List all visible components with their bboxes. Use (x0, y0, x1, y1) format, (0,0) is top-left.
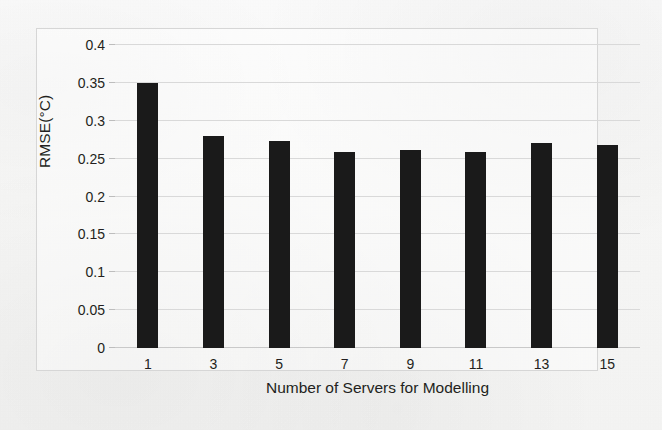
x-tick-label: 13 (522, 356, 562, 372)
y-tick-mark (109, 309, 115, 310)
bar (269, 141, 290, 348)
y-tick-label: 0.3 (45, 113, 105, 129)
y-tick-label: 0.35 (45, 75, 105, 91)
y-tick-label: 0 (45, 340, 105, 356)
x-tick-label: 3 (193, 356, 233, 372)
y-tick-label: 0.4 (45, 37, 105, 53)
bar (531, 143, 552, 348)
page-background: RMSE(°C) 00.050.10.150.20.250.30.350.4 N… (0, 0, 662, 430)
y-tick-mark (109, 347, 115, 348)
y-tick-mark (109, 271, 115, 272)
y-tick-label: 0.15 (45, 226, 105, 242)
y-gridline (115, 233, 640, 234)
y-gridline (115, 120, 640, 121)
bar (334, 152, 355, 348)
y-tick-label: 0.25 (45, 151, 105, 167)
x-tick-label: 15 (587, 356, 627, 372)
bar (400, 150, 421, 348)
x-tick-label: 1 (128, 356, 168, 372)
y-tick-mark (109, 120, 115, 121)
y-gridline (115, 347, 640, 348)
y-tick-label: 0.05 (45, 302, 105, 318)
bar (465, 152, 486, 348)
x-tick-label: 9 (390, 356, 430, 372)
bar (597, 145, 618, 348)
bar (137, 83, 158, 348)
x-axis-title: Number of Servers for Modelling (115, 379, 640, 397)
y-gridline (115, 271, 640, 272)
y-gridline (115, 196, 640, 197)
x-tick-label: 7 (325, 356, 365, 372)
y-tick-mark (109, 233, 115, 234)
plot-area (115, 45, 640, 348)
y-axis-tick-labels: 00.050.10.150.20.250.30.350.4 (43, 45, 105, 348)
y-tick-label: 0.1 (45, 264, 105, 280)
y-gridline (115, 44, 640, 45)
x-tick-label: 11 (456, 356, 496, 372)
bar (203, 136, 224, 348)
y-gridline (115, 158, 640, 159)
y-tick-mark (109, 44, 115, 45)
y-tick-mark (109, 196, 115, 197)
y-gridline (115, 309, 640, 310)
x-tick-label: 5 (259, 356, 299, 372)
y-tick-label: 0.2 (45, 189, 105, 205)
y-tick-mark (109, 82, 115, 83)
y-tick-mark (109, 158, 115, 159)
y-gridline (115, 82, 640, 83)
